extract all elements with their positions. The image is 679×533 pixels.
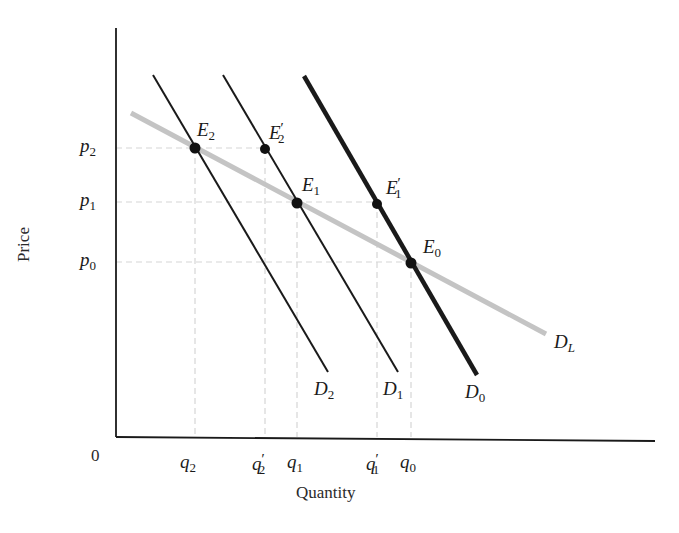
tick-base: q	[400, 451, 410, 472]
label-e0: E0	[423, 237, 441, 259]
point-e2	[190, 143, 201, 154]
curve-base: D	[554, 331, 568, 352]
tick-base: p	[80, 189, 90, 210]
x-tick-q1: q1	[287, 452, 303, 474]
tick-sub: 0	[90, 258, 97, 273]
curve-sub: 1	[397, 387, 404, 402]
label-e1-prime: E′1	[386, 176, 401, 200]
curve-sub: 0	[479, 390, 486, 405]
label-dl: DL	[554, 332, 575, 354]
diagram-canvas	[0, 0, 679, 533]
point-sub: 2	[209, 128, 216, 143]
curve-d1	[223, 75, 398, 372]
tick-sub: 2	[190, 460, 197, 475]
point-sub: 2	[278, 131, 285, 146]
x-tick-q2: q2	[180, 452, 196, 474]
x-axis-title: Quantity	[296, 483, 356, 503]
curve-sub: L	[568, 340, 575, 355]
y-tick-p2: p2	[80, 136, 96, 158]
point-sub: 0	[435, 245, 442, 260]
y-tick-p1: p1	[80, 190, 96, 212]
tick-sub: 2	[90, 144, 97, 159]
tick-base: p	[80, 135, 90, 156]
label-d1: D1	[383, 379, 403, 401]
curve-sub: 2	[328, 387, 335, 402]
tick-sub: 2	[259, 462, 266, 477]
tick-base: p	[80, 249, 90, 270]
origin-label: 0	[91, 446, 100, 466]
x-tick-q0: q0	[400, 452, 416, 474]
tick-sub: 1	[297, 460, 304, 475]
x-tick-q2-prime: q′2	[252, 452, 265, 476]
tick-sub: 0	[410, 460, 417, 475]
demand-shift-diagram: Price Quantity 0 p2 p1 p0 q2 q′2 q1 q′1 …	[0, 0, 679, 533]
x-tick-q1-prime: q′1	[366, 452, 379, 476]
label-d0: D0	[465, 382, 485, 404]
curve-base: D	[314, 378, 328, 399]
x-axis	[116, 437, 655, 441]
curve-d0	[304, 76, 477, 375]
point-e2-prime	[260, 144, 270, 154]
label-e1: E1	[302, 175, 320, 197]
curve-base: D	[465, 381, 479, 402]
curve-base: D	[383, 378, 397, 399]
y-axis-title: Price	[14, 227, 34, 262]
tick-base: q	[287, 451, 297, 472]
point-sub: 1	[314, 183, 321, 198]
tick-base: q	[180, 451, 190, 472]
label-e2-prime: E′2	[269, 121, 284, 145]
tick-sub: 1	[90, 198, 97, 213]
point-e1-prime	[372, 199, 382, 209]
point-base: E	[423, 236, 435, 257]
point-base: E	[197, 119, 209, 140]
point-e1	[292, 198, 303, 209]
label-e2: E2	[197, 120, 215, 142]
guide-lines	[116, 148, 411, 437]
tick-sub: 1	[373, 462, 380, 477]
point-base: E	[302, 174, 314, 195]
y-tick-p0: p0	[80, 250, 96, 272]
label-d2: D2	[314, 379, 334, 401]
curve-d2	[153, 75, 328, 372]
point-sub: 1	[395, 186, 402, 201]
point-e0	[406, 258, 417, 269]
